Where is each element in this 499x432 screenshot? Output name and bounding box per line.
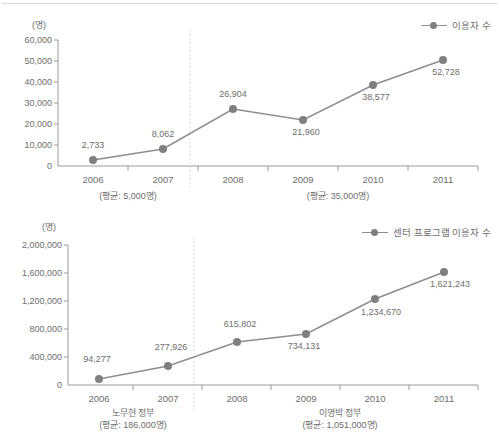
bottom-chart-panel: (명) 센터 프로그램 이용자 수 2,000,000 1,600,000 1,… [0, 215, 499, 432]
bottom-period-left: 노무현 정부 (평균: 186,000명) [99, 407, 167, 431]
top-point-label-2006: 2,733 [82, 140, 105, 150]
bottom-period-right-government: 이명박 정부 [302, 407, 377, 419]
bottom-point-label-2011: 1,621,243 [430, 279, 470, 289]
top-divider-rule [2, 3, 497, 4]
bottom-period-right: 이명박 정부 (평균: 1,051,000명) [302, 407, 377, 431]
bottom-point-label-2008: 615,802 [224, 319, 257, 329]
top-point-label-2010: 38,577 [362, 92, 390, 102]
bottom-point-label-2007: 277,926 [155, 342, 188, 352]
top-point-label-2011: 52,728 [432, 67, 460, 77]
top-point-label-2009: 21,960 [292, 127, 320, 137]
top-xtick-2011: 2011 [433, 174, 453, 185]
top-chart-panel: (명) 이용자 수 60,000 50,000 40,000 30,000 20… [0, 8, 499, 213]
top-xtick-2007: 2007 [152, 174, 173, 185]
bottom-point-label-2010: 1,234,670 [361, 307, 401, 317]
bottom-xtick-2008: 2008 [226, 393, 247, 404]
top-xtick-2009: 2009 [292, 174, 313, 185]
bottom-point-label-2009: 734,131 [288, 341, 321, 351]
bottom-xtick-2006: 2006 [88, 393, 109, 404]
top-xtick-2010: 2010 [362, 174, 383, 185]
top-xtick-2008: 2008 [222, 174, 243, 185]
bottom-xtick-2010: 2010 [364, 393, 385, 404]
bottom-period-left-government: 노무현 정부 [99, 407, 167, 419]
top-period-left-average: (평균: 5,000명) [99, 190, 157, 202]
top-chart-plot [0, 8, 499, 213]
top-xtick-2006: 2006 [82, 174, 103, 185]
top-point-label-2008: 26,904 [219, 89, 247, 99]
bottom-point-label-2006: 94,277 [83, 354, 111, 364]
top-period-right-average: (평균: 35,000명) [307, 190, 370, 202]
bottom-xtick-2009: 2009 [295, 393, 316, 404]
bottom-xtick-2007: 2007 [157, 393, 178, 404]
bottom-period-left-average: (평균: 186,000명) [99, 419, 167, 431]
bottom-period-right-average: (평균: 1,051,000명) [302, 419, 377, 431]
top-point-label-2007: 8,062 [152, 129, 175, 139]
top-period-right: (평균: 35,000명) [307, 190, 370, 202]
top-period-left: (평균: 5,000명) [99, 190, 157, 202]
chart-figure: (명) 이용자 수 60,000 50,000 40,000 30,000 20… [0, 0, 499, 432]
bottom-xtick-2011: 2011 [434, 393, 454, 404]
